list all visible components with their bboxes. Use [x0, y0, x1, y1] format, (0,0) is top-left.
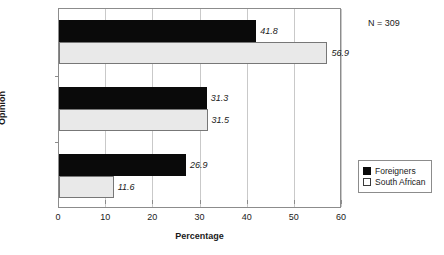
legend-item-south-african[interactable]: South African	[363, 177, 426, 187]
x-axis-tick	[58, 200, 59, 204]
bar-for-foreigners[interactable]	[59, 87, 207, 109]
legend-item-foreigners[interactable]: Foreigners	[363, 166, 426, 176]
bar-unsure-foreigners[interactable]	[59, 154, 186, 176]
x-axis-tick-label: 60	[336, 212, 346, 222]
x-axis-tick	[341, 200, 342, 204]
bar-group-row: 41.8	[59, 20, 342, 42]
sample-size-annotation: N = 309	[368, 18, 400, 28]
bar-group-row: 31.5	[59, 109, 342, 131]
x-axis-tick-label: 10	[100, 212, 110, 222]
y-axis-tick	[55, 142, 59, 143]
bar-against-south-african[interactable]	[59, 42, 327, 64]
y-axis-tick	[55, 76, 59, 77]
bar-against-foreigners[interactable]	[59, 20, 256, 42]
x-axis-tick-label: 40	[242, 212, 252, 222]
bar-for-south-african[interactable]	[59, 109, 208, 131]
x-axis-tick	[152, 200, 153, 204]
x-axis-tick	[294, 200, 295, 204]
bar-value-label: 31.5	[208, 115, 230, 125]
x-axis-title: Percentage	[58, 231, 341, 241]
bar-value-label: 11.6	[114, 182, 135, 192]
legend-label: South African	[375, 177, 426, 187]
bar-value-label: 41.8	[256, 26, 278, 36]
bar-group-row: 11.6	[59, 176, 342, 198]
bar-value-label: 56.9	[327, 48, 349, 58]
legend-label: Foreigners	[375, 166, 416, 176]
y-axis-title: Opinion	[0, 91, 7, 125]
bar-group-row: 56.9	[59, 42, 342, 64]
bar-value-label: 31.3	[207, 93, 229, 103]
bar-group-row: 31.3	[59, 87, 342, 109]
x-axis-tick-label: 20	[147, 212, 157, 222]
bar-unsure-south-african[interactable]	[59, 176, 114, 198]
x-axis-tick-label: 50	[289, 212, 299, 222]
bar-group-row: 26.9	[59, 154, 342, 176]
chart-legend: ForeignersSouth African	[358, 160, 432, 193]
x-axis-tick	[247, 200, 248, 204]
x-axis-tick-label: 0	[55, 212, 60, 222]
legend-swatch-south-african	[363, 178, 371, 186]
plot-area: 41.856.931.331.526.911.6	[58, 8, 341, 208]
legend-swatch-foreigners	[363, 167, 371, 175]
x-axis-tick-label: 30	[194, 212, 204, 222]
bar-value-label: 26.9	[186, 160, 208, 170]
x-axis-tick	[200, 200, 201, 204]
x-axis-tick	[105, 200, 106, 204]
bar-chart: 41.856.931.331.526.911.6 Opinion Percent…	[0, 0, 444, 255]
